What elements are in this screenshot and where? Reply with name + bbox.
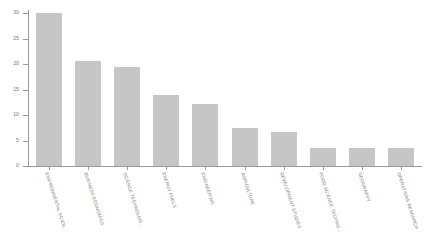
bar (271, 132, 297, 166)
x-tick-mark (88, 167, 89, 170)
x-tick-mark (401, 167, 402, 170)
x-tick-mark (127, 167, 128, 170)
x-tick-mark (284, 167, 285, 170)
bar (75, 61, 101, 166)
x-tick-mark (166, 167, 167, 170)
x-tick-mark (245, 167, 246, 170)
bar (114, 67, 140, 166)
bar-series (0, 0, 448, 248)
x-tick-mark (323, 167, 324, 170)
bar (232, 128, 258, 166)
x-tick-mark (49, 167, 50, 170)
bar (153, 95, 179, 166)
bar (36, 13, 62, 166)
x-tick-mark (205, 167, 206, 170)
bar (388, 148, 414, 166)
bar (310, 148, 336, 166)
bar-chart: 051015202530 ENVIRONMENTAL SCIEN...BUSIN… (0, 0, 448, 248)
x-tick-mark (362, 167, 363, 170)
bar (349, 148, 375, 166)
bar (192, 104, 218, 166)
